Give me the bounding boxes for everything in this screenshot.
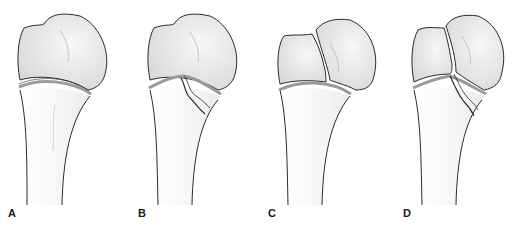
panel-d-head-fragment-left: [412, 28, 452, 83]
panel-a-head: [18, 14, 107, 90]
fracture-diagram: [0, 0, 517, 227]
panel-label-b: B: [138, 207, 146, 219]
panel-b-bone: [148, 14, 237, 205]
panel-d-bone: [412, 15, 504, 205]
panel-label-a: A: [8, 207, 16, 219]
panel-label-c: C: [268, 207, 276, 219]
panel-c-bone: [278, 19, 376, 205]
panel-label-d: D: [403, 207, 411, 219]
panel-a-bone: [18, 14, 107, 205]
